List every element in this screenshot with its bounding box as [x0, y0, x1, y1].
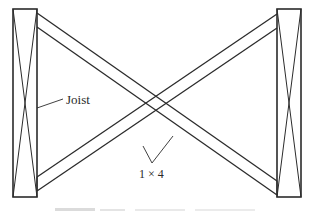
joist-label: Joist [66, 92, 90, 107]
brace-callout: 1 × 4 [139, 136, 173, 181]
joist-leader-line [37, 99, 63, 108]
right-joist [277, 9, 301, 197]
cross-bridging-diagram: Joist 1 × 4 [0, 0, 310, 211]
left-joist [13, 9, 37, 197]
cropped-caption [55, 208, 255, 211]
brace-label: 1 × 4 [139, 167, 164, 181]
joist-callout: Joist [37, 92, 90, 108]
brace-leader-line-left [143, 146, 152, 163]
brace-leader-line-right [152, 136, 173, 163]
